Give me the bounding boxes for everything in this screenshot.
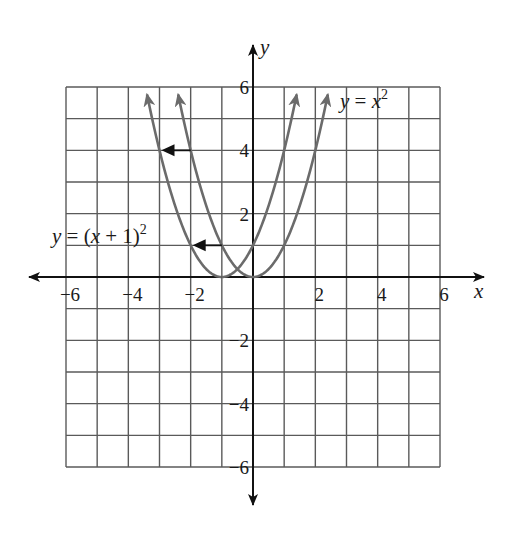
parabola-translation-chart: −6−4−2246−6−4−2246 y x y = x2 y = (x + 1… [0, 0, 508, 534]
y-tick-label: 6 [240, 77, 250, 98]
y-tick-label: 2 [240, 204, 250, 225]
curve-parent-left [178, 95, 253, 277]
eq-shift-y: y [50, 224, 62, 248]
eq-parent-exponent: 2 [381, 87, 388, 102]
equation-label-shifted: y = (x + 1)2 [50, 222, 147, 248]
eq-shift-open: = ( [61, 224, 90, 248]
shift-arrows [162, 144, 222, 251]
curves [147, 95, 328, 277]
x-tick-label: 4 [377, 284, 387, 305]
eq-parent-y: y [338, 89, 350, 113]
x-tick-label: −4 [122, 284, 143, 305]
curve-shifted-right [222, 95, 297, 277]
y-tick-label: 4 [240, 140, 250, 161]
x-tick-label: −6 [60, 284, 80, 305]
shift-arrow-head-icon [162, 144, 175, 156]
y-tick-label: −4 [229, 394, 250, 415]
x-tick-label: 6 [439, 284, 449, 305]
eq-shift-exponent: 2 [140, 222, 147, 237]
x-axis-label: x [473, 279, 484, 303]
eq-shift-rest: + 1) [100, 224, 140, 248]
x-tick-label: 2 [315, 284, 325, 305]
shift-arrow-head-icon [193, 239, 206, 251]
y-axis-label: y [258, 35, 270, 59]
x-tick-label: −2 [185, 284, 205, 305]
equation-label-parent: y = x2 [338, 87, 388, 113]
eq-parent-equals: = [349, 89, 371, 113]
y-tick-label: −6 [229, 457, 249, 478]
y-tick-label: −2 [229, 330, 249, 351]
